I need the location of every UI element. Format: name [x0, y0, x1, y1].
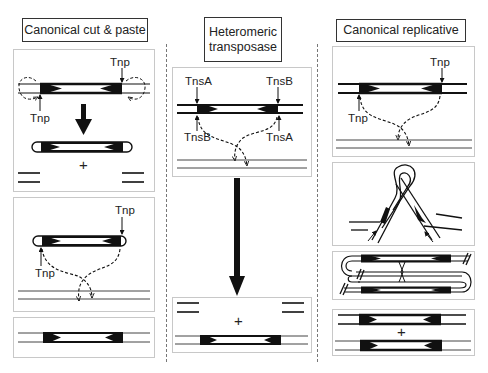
cp-p1-donor-dna — [18, 84, 150, 93]
rp-p2-strand-transfer-loop — [349, 165, 462, 243]
cp-p2-transfer-path-right-icon — [79, 249, 120, 301]
ht-p2-plus: + — [234, 312, 243, 329]
ht-label-tnsb-top: TnsB — [266, 75, 293, 87]
ht-p1-target-dna — [177, 160, 307, 168]
cp-p2-label-tnp-top: Tnp — [115, 204, 135, 216]
ht-p2-donor-fragment-right — [282, 303, 304, 312]
ht-p1-donor-dna — [177, 104, 303, 114]
cp-p1-curl-right-icon — [126, 77, 145, 99]
ht-label-tnsa-top: TnsA — [185, 75, 212, 87]
rp-p3-transposon-copies — [361, 255, 451, 293]
rp-p1-label-tnp-bottom: Tnp — [348, 112, 368, 124]
cp-p3-product — [18, 332, 150, 343]
ht-p2-donor-fragment-left — [177, 303, 199, 312]
cp-p2-excised-transposon — [33, 236, 126, 246]
rp-p1-label-tnp-top: Tnp — [430, 56, 450, 68]
cp-p1-ir-left — [40, 84, 62, 93]
cp-p1-donor-fragment-left — [18, 173, 40, 182]
cp-p1-process-arrow-icon — [75, 104, 92, 135]
ht-p2-product — [175, 335, 308, 345]
cp-p2-label-tnp-bottom: Tnp — [35, 267, 55, 279]
ht-label-tnsa-bottom: TnsA — [266, 131, 293, 143]
cp-p1-label-tnp-top: Tnp — [110, 56, 130, 68]
cp-p1-excised-transposon — [32, 142, 132, 152]
cp-p2-target-dna — [18, 291, 150, 299]
diagram-canvas: Tnp Tnp + Tnp Tnp — [0, 0, 488, 373]
ht-label-tnsb-bottom: TnsB — [184, 131, 211, 143]
cp-p1-ir-right — [100, 84, 122, 93]
ht-process-arrow-icon — [229, 178, 245, 296]
cp-p1-plus: + — [79, 156, 88, 173]
rp-p1-donor-dna — [338, 84, 467, 93]
rp-p1-target-dna — [336, 140, 472, 148]
cp-p1-curl-left-icon — [19, 77, 38, 99]
rp-p1-transfer-path-right-icon — [398, 96, 440, 140]
cp-p1-donor-fragment-right — [122, 173, 144, 182]
rp-p2-tnp-arrow-right-icon — [425, 232, 433, 242]
rp-p3-break-marks-icon — [340, 253, 471, 295]
cp-p1-label-tnp-bottom: Tnp — [30, 112, 50, 124]
rp-p4-product-bottom — [335, 340, 471, 351]
rp-p4-plus: + — [397, 323, 406, 340]
